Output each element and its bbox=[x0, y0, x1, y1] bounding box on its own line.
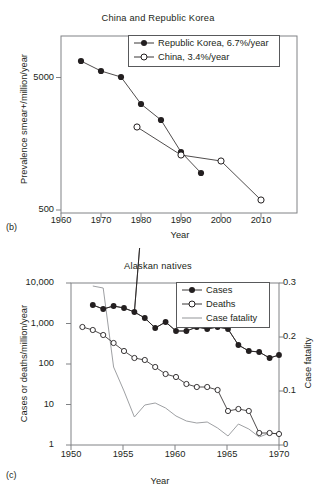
legend-label-case-fatality: Case fatality bbox=[206, 313, 257, 323]
panel-b-legend: Republic Korea, 6.7%/year China, 3.4%/ye… bbox=[128, 35, 280, 67]
panel-c-chart: Alaskan natives (c) Cases or deaths/mill… bbox=[0, 248, 316, 499]
open-circle-icon bbox=[133, 52, 155, 62]
panel-c-xtick-marks bbox=[71, 445, 279, 450]
filled-circle-icon bbox=[181, 285, 203, 295]
panel-b-series-korea bbox=[78, 58, 204, 176]
filled-circle-icon bbox=[133, 38, 155, 48]
legend-label-china: China, 3.4%/year bbox=[158, 52, 229, 62]
panel-b-xtick-marks bbox=[61, 213, 261, 218]
legend-label-deaths: Deaths bbox=[206, 299, 235, 309]
line-icon bbox=[181, 313, 203, 323]
panel-b-series-china bbox=[134, 124, 264, 203]
panel-c-legend: Cases Deaths Case fatality bbox=[176, 282, 270, 328]
legend-item-china: China, 3.4%/year bbox=[129, 50, 279, 64]
panel-c-ytick-marks-left bbox=[66, 283, 71, 445]
legend-item-case-fatality: Case fatality bbox=[177, 311, 269, 325]
panel-c-ytick-marks-right bbox=[279, 283, 284, 445]
legend-item-republic-korea: Republic Korea, 6.7%/year bbox=[129, 36, 279, 50]
legend-item-deaths: Deaths bbox=[177, 297, 269, 311]
open-circle-icon bbox=[181, 299, 203, 309]
legend-label-republic-korea: Republic Korea, 6.7%/year bbox=[158, 38, 269, 48]
legend-label-cases: Cases bbox=[206, 285, 232, 295]
panel-b-chart: China and Republic Korea (b) Prevalence … bbox=[0, 0, 316, 248]
legend-item-cases: Cases bbox=[177, 283, 269, 297]
